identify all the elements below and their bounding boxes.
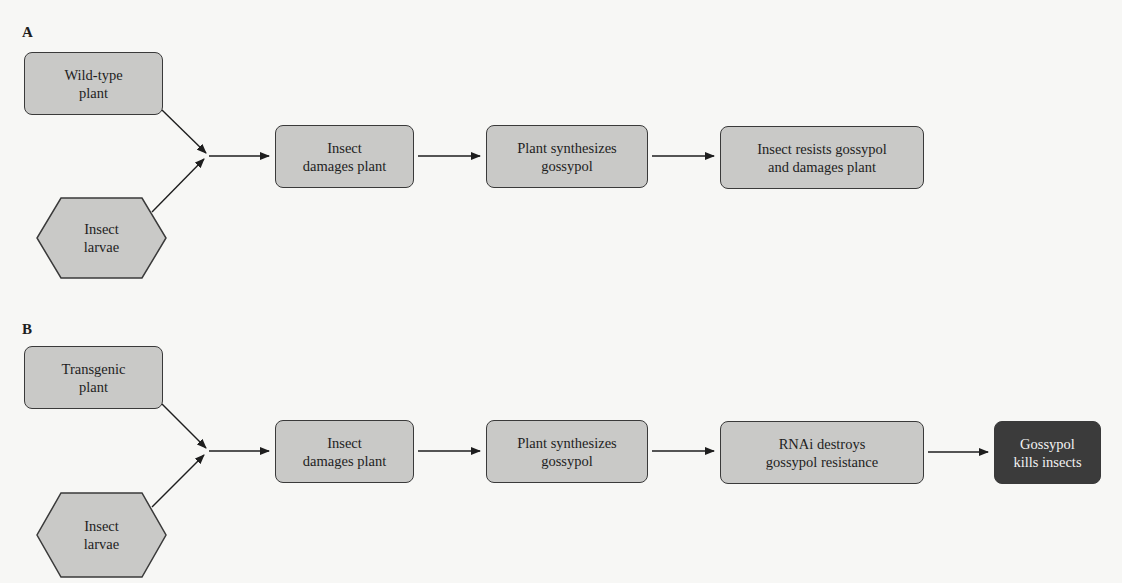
panel-label-a: A (22, 24, 33, 41)
outcome-gossypol-kills-insects: Gossypol kills insects (994, 421, 1101, 484)
connector-arrows (0, 0, 1122, 583)
transgenic-plant-box: Transgenic plant (24, 346, 163, 409)
insect-larvae-hexagon-a: Insect larvae (35, 197, 168, 279)
step-plant-synthesizes-gossypol-b: Plant synthesizes gossypol (486, 420, 648, 483)
insect-larvae-hexagon-b: Insect larvae (35, 492, 168, 578)
wild-type-plant-box: Wild-type plant (24, 52, 163, 115)
step-insect-damages-plant-a: Insect damages plant (275, 125, 414, 188)
step-insect-damages-plant-b: Insect damages plant (275, 420, 414, 483)
step-insect-resists-gossypol: Insect resists gossypol and damages plan… (720, 126, 924, 189)
insect-larvae-label-a: Insect larvae (35, 197, 168, 279)
panel-label-b: B (22, 321, 32, 338)
insect-larvae-label-b: Insect larvae (35, 492, 168, 578)
step-plant-synthesizes-gossypol-a: Plant synthesizes gossypol (486, 125, 648, 188)
step-rnai-destroys-resistance: RNAi destroys gossypol resistance (720, 421, 924, 484)
